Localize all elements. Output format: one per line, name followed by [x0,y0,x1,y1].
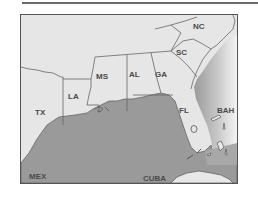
label-bah: BAH [217,106,235,115]
label-ga: GA [155,70,167,79]
label-la: LA [68,92,79,101]
label-nc: NC [193,22,205,31]
top-divider-line [22,2,258,4]
label-fl: FL [179,106,189,115]
southeast-us-map: NC SC GA AL MS LA TX FL BAH MEX CUBA [21,15,237,183]
label-sc: SC [176,48,187,57]
label-al: AL [129,70,140,79]
lake-okeechobee [191,126,197,133]
label-mex: MEX [29,172,47,181]
label-cuba: CUBA [143,174,166,183]
label-tx: TX [35,108,46,117]
label-ms: MS [96,72,109,81]
map-frame: NC SC GA AL MS LA TX FL BAH MEX CUBA [20,14,238,184]
